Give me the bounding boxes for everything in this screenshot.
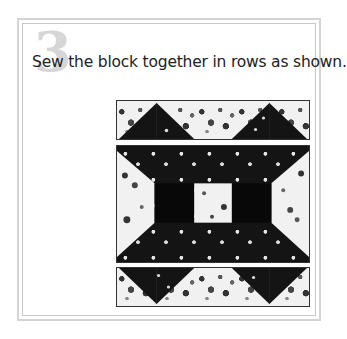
middle-row-shapes — [117, 146, 309, 262]
quilt-bottom-row — [116, 267, 310, 307]
top-row-triangles — [117, 101, 309, 139]
step-instruction: Sew the block together in rows as shown. — [32, 53, 347, 71]
bottom-row-triangles — [117, 268, 309, 306]
quilt-top-row — [116, 100, 310, 140]
quilt-middle-row — [116, 145, 310, 263]
